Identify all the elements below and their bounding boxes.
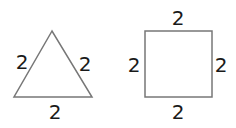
- square-bottom-side-label: 2: [172, 102, 185, 122]
- triangle-bottom-side-label: 2: [49, 102, 62, 122]
- triangle-left-side-label: 2: [16, 52, 29, 72]
- triangle-right-side-label: 2: [79, 54, 92, 74]
- square-right-side-label: 2: [215, 55, 228, 75]
- square-top-side-label: 2: [172, 8, 185, 28]
- diagram-canvas: [0, 0, 236, 128]
- square-shape: [145, 31, 212, 97]
- square-left-side-label: 2: [128, 55, 141, 75]
